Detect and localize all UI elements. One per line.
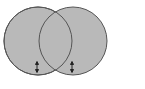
venn-diagram <box>0 0 145 89</box>
